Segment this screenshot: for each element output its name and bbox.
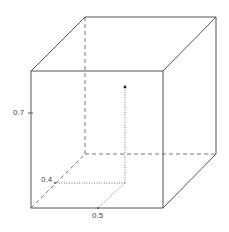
label-z-tick: 0.7 bbox=[13, 108, 24, 117]
hidden-edge-bottom-left bbox=[31, 154, 85, 208]
cube-svg bbox=[0, 0, 229, 232]
label-x-tick: 0.5 bbox=[92, 211, 103, 220]
front-face bbox=[31, 71, 163, 208]
edge-top-right bbox=[163, 17, 216, 71]
label-y-tick: 0.4 bbox=[41, 175, 52, 184]
edge-top-left bbox=[31, 17, 85, 71]
cube-diagram: 0.7 0.4 0.5 bbox=[0, 0, 229, 232]
plotted-point bbox=[124, 86, 127, 89]
projection-to-x bbox=[98, 183, 125, 208]
edge-bottom-right bbox=[163, 154, 216, 208]
tick-x bbox=[97, 207, 99, 209]
tick-y bbox=[54, 182, 56, 184]
